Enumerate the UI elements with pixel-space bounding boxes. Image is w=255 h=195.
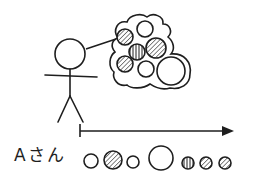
arms bbox=[45, 75, 97, 77]
thought-circle-hatched bbox=[117, 29, 133, 45]
thought-circle-plain bbox=[138, 61, 154, 77]
sequence-circle-plain bbox=[149, 146, 173, 170]
head bbox=[55, 39, 85, 69]
sequence-circle-plain bbox=[127, 156, 139, 168]
arrowhead bbox=[222, 126, 234, 136]
sequence-circles bbox=[84, 146, 231, 170]
sequence-circle-hatched bbox=[182, 157, 194, 169]
thought-circle-hatched bbox=[146, 38, 166, 58]
thought-circle-hatched bbox=[129, 44, 145, 60]
sequence-circle-hatched bbox=[200, 157, 212, 169]
right-arrow-icon bbox=[80, 124, 234, 137]
thought-circle-plain bbox=[157, 57, 185, 85]
right-leg bbox=[70, 96, 83, 122]
thought-circle-hatched bbox=[117, 56, 133, 72]
sequence-circle-hatched bbox=[104, 151, 122, 169]
stick-figure-icon bbox=[45, 39, 97, 122]
sequence-circle-hatched bbox=[219, 157, 231, 169]
person-label: Aさん bbox=[14, 145, 66, 165]
left-leg bbox=[58, 96, 70, 122]
diagram-canvas bbox=[0, 0, 255, 195]
sequence-circle-plain bbox=[84, 154, 98, 168]
thought-circle-plain bbox=[137, 21, 153, 37]
